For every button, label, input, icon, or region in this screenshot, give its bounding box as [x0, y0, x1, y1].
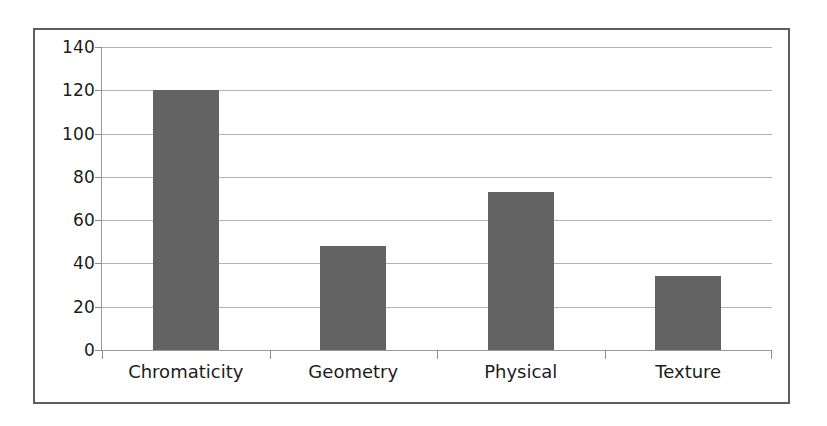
y-axis-tick-label: 0	[35, 342, 95, 359]
y-axis-tick-100	[95, 134, 102, 135]
y-axis-tick-label: 40	[35, 255, 95, 272]
y-axis-tick-label: 60	[35, 212, 95, 229]
y-axis-tick-80	[95, 177, 102, 178]
y-axis-line	[101, 47, 102, 350]
x-axis-separator-tick	[437, 350, 438, 359]
y-axis-tick-label: 20	[35, 298, 95, 315]
plot-area	[102, 47, 772, 350]
x-axis-category-labels: ChromaticityGeometryPhysicalTexture	[102, 360, 772, 394]
y-axis-tick-120	[95, 90, 102, 91]
x-axis-end-tick	[771, 350, 772, 359]
x-axis-category-label: Chromaticity	[128, 360, 243, 384]
y-axis-tick-label: 120	[35, 82, 95, 99]
y-axis-tick-label: 80	[35, 168, 95, 185]
y-axis-tick-140	[95, 47, 102, 48]
x-axis-category-label: Physical	[484, 360, 557, 384]
bar-texture	[655, 276, 721, 350]
y-axis-tick-20	[95, 307, 102, 308]
x-axis-separator-tick	[270, 350, 271, 359]
x-axis-category-label: Texture	[655, 360, 721, 384]
bar-geometry	[320, 246, 386, 350]
x-axis-end-tick	[102, 350, 103, 359]
y-axis-tick-label: 100	[35, 125, 95, 142]
y-axis-tick-label: 140	[35, 39, 95, 56]
x-axis-separator-tick	[605, 350, 606, 359]
y-axis-tick-labels: 020406080100120140	[35, 47, 95, 350]
bar-physical	[488, 192, 554, 350]
x-axis-category-label: Geometry	[308, 360, 398, 384]
gridline-140	[102, 47, 772, 48]
y-axis-tick-40	[95, 263, 102, 264]
chart-frame: 020406080100120140 ChromaticityGeometryP…	[33, 28, 790, 404]
y-axis-tick-0	[95, 350, 102, 351]
bar-chromaticity	[153, 90, 219, 350]
y-axis-tick-60	[95, 220, 102, 221]
